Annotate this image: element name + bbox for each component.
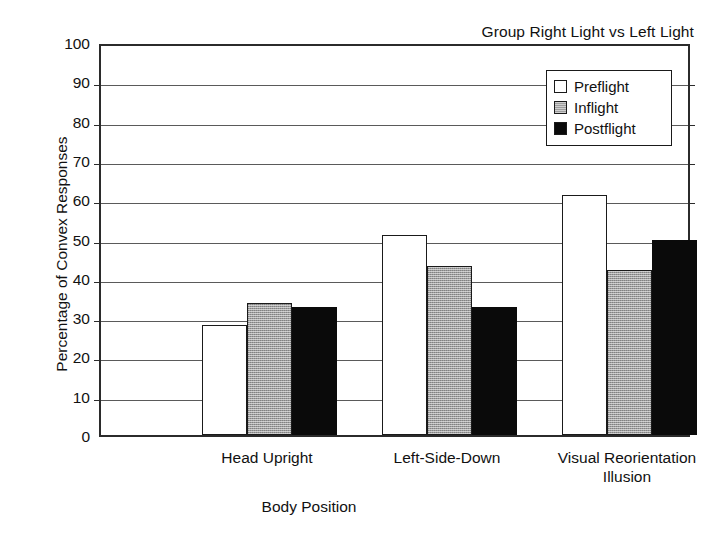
legend-swatch-inflight-icon: [554, 101, 567, 114]
y-tick-label: 10: [73, 390, 90, 406]
legend: PreflightInflightPostflight: [546, 70, 672, 146]
y-tick-label: 70: [73, 154, 90, 170]
bar-chart-figure: Group Right Light vs Left Light Percenta…: [0, 0, 708, 547]
x-tick-label-group-1: Head Upright: [221, 448, 312, 467]
legend-row-postflight: Postflight: [554, 118, 664, 139]
y-tick-label: 100: [64, 36, 90, 52]
bar-preflight-group-1: [202, 325, 247, 435]
x-tick-label-line: Visual Reorientation: [558, 448, 696, 467]
legend-label: Postflight: [574, 121, 636, 136]
y-tick-mark-right: [688, 203, 695, 204]
bar-inflight-group-3: [607, 270, 652, 435]
x-tick-label-line: Head Upright: [221, 448, 312, 467]
y-tick-mark-left: [94, 400, 101, 401]
x-tick-label-line: Left-Side-Down: [394, 448, 501, 467]
y-tick-label: 30: [73, 311, 90, 327]
x-tick-label-group-2: Left-Side-Down: [394, 448, 501, 467]
chart-title: Group Right Light vs Left Light: [0, 23, 694, 41]
y-tick-label: 50: [73, 233, 90, 249]
y-tick-mark-left: [94, 243, 101, 244]
y-axis-tick-labels: 0102030405060708090100: [40, 44, 90, 437]
y-tick-label: 90: [73, 76, 90, 92]
y-tick-label: 20: [73, 351, 90, 367]
y-tick-label: 0: [81, 429, 90, 445]
y-tick-mark-right: [688, 125, 695, 126]
y-tick-mark-left: [94, 321, 101, 322]
y-tick-mark-left: [94, 85, 101, 86]
legend-row-preflight: Preflight: [554, 76, 664, 97]
y-axis-title-holder: Percentage of Convex Responses: [12, 30, 42, 440]
y-tick-label: 40: [73, 272, 90, 288]
legend-label: Inflight: [574, 100, 618, 115]
x-tick-label-line: Illusion: [558, 467, 696, 486]
legend-label: Preflight: [574, 79, 629, 94]
bar-postflight-group-1: [292, 307, 337, 435]
y-tick-mark-left: [94, 203, 101, 204]
y-tick-label: 60: [73, 193, 90, 209]
y-tick-label: 80: [73, 115, 90, 131]
legend-swatch-postflight-icon: [554, 122, 567, 135]
x-tick-label-group-3: Visual ReorientationIllusion: [558, 448, 696, 486]
y-tick-mark-left: [94, 360, 101, 361]
bar-preflight-group-3: [562, 195, 607, 435]
y-tick-mark-left: [94, 282, 101, 283]
y-tick-mark-right: [688, 164, 695, 165]
y-tick-mark-left: [94, 164, 101, 165]
legend-row-inflight: Inflight: [554, 97, 664, 118]
x-axis-tick-labels: Head UprightLeft-Side-DownVisual Reorien…: [99, 448, 690, 496]
bar-postflight-group-3: [652, 240, 697, 435]
bar-postflight-group-2: [472, 307, 517, 435]
bar-inflight-group-1: [247, 303, 292, 435]
bar-inflight-group-2: [427, 266, 472, 435]
bar-preflight-group-2: [382, 235, 427, 435]
x-axis-title: Body Position: [99, 498, 519, 516]
y-tick-mark-left: [94, 125, 101, 126]
y-tick-mark-right: [688, 85, 695, 86]
legend-swatch-preflight-icon: [554, 80, 567, 93]
